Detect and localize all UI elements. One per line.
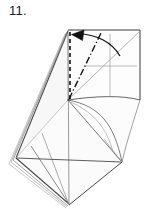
node-dot — [67, 99, 69, 101]
origami-step-diagram — [0, 0, 151, 209]
paper-fills — [16, 30, 140, 205]
diagram-page: 11. — [0, 0, 151, 209]
fold-convergence-node — [67, 99, 69, 101]
